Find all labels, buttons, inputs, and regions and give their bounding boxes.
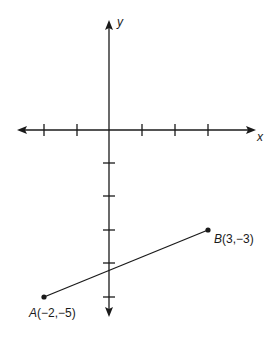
- point-b-label: B(3,−3): [214, 232, 254, 246]
- x-axis-label: x: [256, 130, 264, 144]
- coordinate-plane: y x A(−2,−5) B(3,−3): [0, 0, 272, 337]
- point-a-label: A(−2,−5): [28, 306, 76, 320]
- segment-ab: [44, 230, 208, 297]
- y-axis-label: y: [116, 15, 124, 29]
- point-a: [41, 294, 46, 299]
- point-b: [205, 227, 210, 232]
